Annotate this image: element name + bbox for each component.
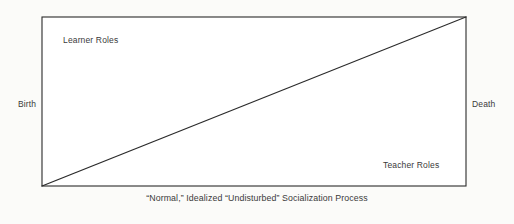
socialization-process-figure: Learner Roles Teacher Roles Birth Death … xyxy=(0,0,514,224)
label-death: Death xyxy=(472,99,495,110)
label-learner-roles: Learner Roles xyxy=(63,35,118,46)
figure-caption: “Normal,” Idealized “Undisturbed” Social… xyxy=(0,192,514,204)
label-teacher-roles: Teacher Roles xyxy=(383,160,439,171)
diagram-canvas xyxy=(0,0,514,224)
label-birth: Birth xyxy=(18,99,36,110)
